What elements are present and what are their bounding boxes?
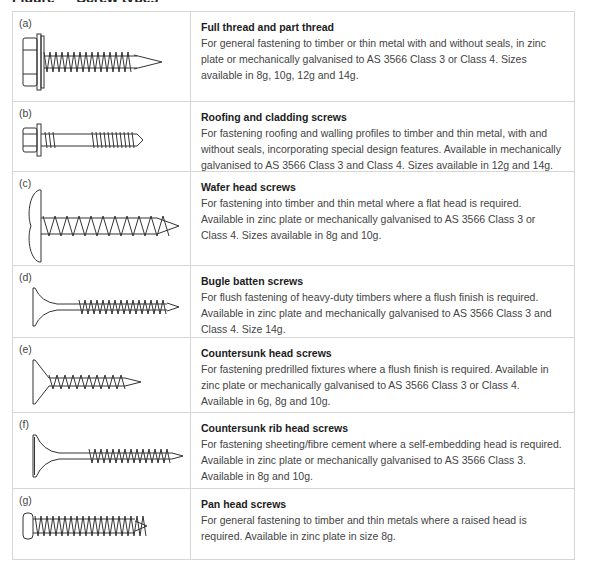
table-row: (a) Full thread and part thread For gene… [13, 12, 574, 102]
row-heading: Full thread and part thread [201, 20, 564, 35]
countersunk-head-screw-icon [17, 358, 187, 408]
row-heading: Bugle batten screws [201, 274, 564, 289]
row-heading: Roofing and cladding screws [201, 110, 564, 125]
pan-head-screw-icon [17, 509, 187, 545]
figure-title: Figure — Screw types [12, 0, 158, 2]
row-label: (e) [19, 343, 32, 355]
row-label: (f) [19, 418, 29, 430]
row-label: (d) [19, 271, 32, 283]
row-heading: Countersunk head screws [201, 346, 564, 361]
row-description: For general fastening to timber and thin… [201, 512, 564, 544]
row-description: For general fastening to timber or thin … [201, 35, 564, 83]
hex-head-sealed-screw-icon [17, 32, 187, 92]
countersunk-rib-head-screw-icon [17, 433, 187, 483]
row-description: For fastening sheeting/fibre cement wher… [201, 436, 564, 484]
wafer-head-screw-icon [17, 186, 187, 266]
row-description: For fastening roofing and walling profil… [201, 125, 564, 173]
table-row: (g) Pan head screws For general fastenin… [13, 489, 574, 559]
row-description: For fastening predrilled fixtures where … [201, 361, 564, 409]
row-label: (g) [19, 494, 32, 506]
screw-types-table: (a) Full thread and part thread For gene… [12, 11, 575, 560]
table-row: (c) Wafer head screws For fastening into… [13, 172, 574, 266]
table-row: (d) Bugle batten screws For flush fasten… [13, 266, 574, 338]
row-heading: Countersunk rib head screws [201, 421, 564, 436]
roofing-screw-icon [17, 122, 187, 162]
row-description: For fastening into timber and thin metal… [201, 195, 564, 243]
bugle-batten-screw-icon [17, 286, 187, 330]
row-heading: Wafer head screws [201, 180, 564, 195]
row-heading: Pan head screws [201, 497, 564, 512]
row-label: (a) [19, 17, 32, 29]
table-row: (e) Countersunk head screws For fastenin… [13, 338, 574, 413]
table-row: (f) Countersunk rib head screws For fast… [13, 413, 574, 489]
row-description: For flush fastening of heavy-duty timber… [201, 289, 564, 337]
table-row: (b) Roofing and cladding screws For fast… [13, 102, 574, 172]
row-label: (b) [19, 107, 32, 119]
